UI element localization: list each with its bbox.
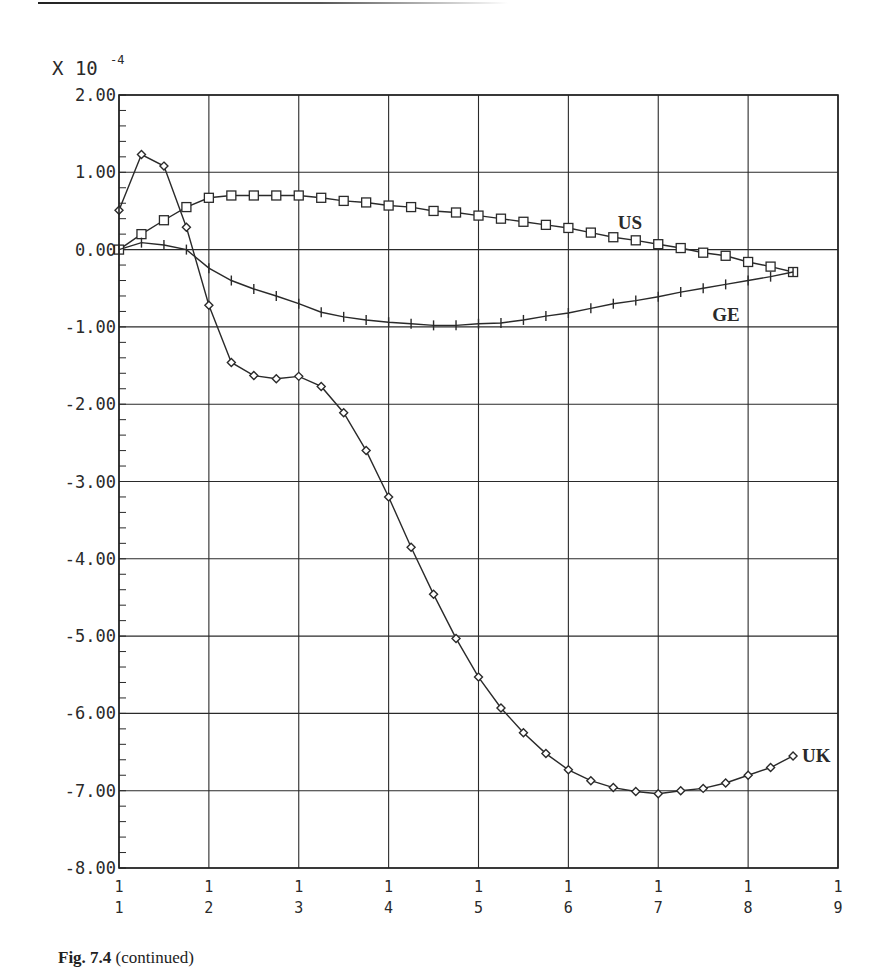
figure-label: Fig. 7.4: [58, 948, 111, 967]
diamond-marker: [789, 752, 797, 760]
figure-caption: Fig. 7.4 (continued): [58, 948, 194, 968]
x-tick-label-top: 1: [114, 878, 123, 896]
square-marker: [249, 191, 258, 200]
x-axis-labels: 111213141516171819: [114, 878, 842, 917]
diamond-marker: [250, 372, 258, 380]
y-tick-label: 2.00: [75, 85, 116, 105]
x-tick-label-bottom: 8: [744, 899, 753, 917]
series-label-us: US: [618, 212, 642, 233]
square-marker: [586, 228, 595, 237]
square-marker: [159, 216, 168, 225]
square-marker: [721, 251, 730, 260]
square-marker: [699, 248, 708, 257]
square-marker: [429, 206, 438, 215]
series-uk: [115, 151, 797, 798]
square-marker: [227, 191, 236, 200]
scale-multiplier: X 10: [52, 57, 98, 79]
x-tick-label-top: 1: [744, 878, 753, 896]
y-tick-label: -5.00: [65, 626, 116, 646]
series-line: [119, 195, 793, 272]
x-tick-label-bottom: 9: [833, 899, 842, 917]
diamond-marker: [744, 771, 752, 779]
y-tick-label: -2.00: [65, 394, 116, 414]
square-marker: [609, 233, 618, 242]
x-tick-label-bottom: 7: [654, 899, 663, 917]
square-marker: [204, 193, 213, 202]
x-tick-label-bottom: 5: [474, 899, 483, 917]
square-marker: [631, 236, 640, 245]
square-marker: [137, 230, 146, 239]
square-marker: [744, 257, 753, 266]
series-label-ge: GE: [712, 304, 739, 325]
x-tick-label-top: 1: [654, 878, 663, 896]
square-marker: [339, 196, 348, 205]
diamond-marker: [272, 375, 280, 383]
series-us: [115, 191, 798, 277]
series-labels: USGEUK: [618, 212, 831, 766]
x-tick-label-top: 1: [204, 878, 213, 896]
y-tick-label: -7.00: [65, 781, 116, 801]
square-marker: [452, 208, 461, 217]
x-tick-label-bottom: 3: [294, 899, 303, 917]
square-marker: [294, 191, 303, 200]
x-tick-label-bottom: 2: [204, 899, 213, 917]
diamond-marker: [407, 543, 415, 551]
y-tick-label: -6.00: [65, 703, 116, 723]
scale-exponent: -4: [110, 53, 124, 67]
y-tick-label: -3.00: [65, 472, 116, 492]
diamond-marker: [205, 301, 213, 309]
y-scale-label: X 10-4: [52, 53, 124, 79]
x-tick-label-top: 1: [294, 878, 303, 896]
y-tick-label: -4.00: [65, 549, 116, 569]
diamond-marker: [137, 151, 145, 159]
square-marker: [676, 244, 685, 253]
diamond-marker: [767, 764, 775, 772]
diamond-marker: [227, 358, 235, 366]
diamond-marker: [362, 447, 370, 455]
square-marker: [407, 203, 416, 212]
diamond-marker: [430, 590, 438, 598]
diamond-marker: [587, 777, 595, 785]
y-tick-label: 1.00: [75, 162, 116, 182]
x-tick-label-bottom: 4: [384, 899, 393, 917]
x-tick-label-top: 1: [474, 878, 483, 896]
square-marker: [272, 191, 281, 200]
square-marker: [182, 203, 191, 212]
square-marker: [541, 220, 550, 229]
y-axis-labels: 2.001.000.00-1.00-2.00-3.00-4.00-5.00-6.…: [65, 85, 116, 878]
series-line: [119, 243, 793, 326]
figure-caption-text: (continued): [111, 948, 194, 967]
diamond-marker: [295, 372, 303, 380]
diamond-marker: [722, 779, 730, 787]
diamond-marker: [632, 787, 640, 795]
x-tick-label-top: 1: [384, 878, 393, 896]
x-tick-label-bottom: 6: [564, 899, 573, 917]
diamond-marker: [677, 787, 685, 795]
square-marker: [766, 262, 775, 271]
x-tick-label-top: 1: [833, 878, 842, 896]
square-marker: [317, 193, 326, 202]
square-marker: [564, 223, 573, 232]
square-marker: [654, 240, 663, 249]
series-label-uk: UK: [802, 745, 831, 766]
series-ge: [119, 238, 793, 331]
y-tick-label: -8.00: [65, 858, 116, 878]
diamond-marker: [385, 493, 393, 501]
x-tick-label-top: 1: [564, 878, 573, 896]
y-tick-label: 0.00: [75, 240, 116, 260]
y-tick-label: -1.00: [65, 317, 116, 337]
x-tick-label-bottom: 1: [114, 899, 123, 917]
diamond-marker: [160, 162, 168, 170]
square-marker: [384, 201, 393, 210]
square-marker: [496, 214, 505, 223]
square-marker: [474, 211, 483, 220]
chart-series: [115, 151, 798, 798]
diamond-marker: [182, 223, 190, 231]
square-marker: [362, 198, 371, 207]
square-marker: [519, 217, 528, 226]
